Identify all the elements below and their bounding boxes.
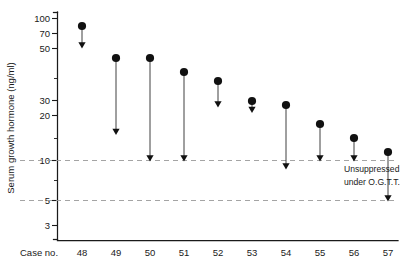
nadir-arrow-icon	[214, 101, 221, 107]
y-tick-labels: 100 70 50 30 20 10 5 3	[34, 13, 50, 231]
case-range-48	[78, 22, 86, 49]
basal-point-marker	[316, 120, 324, 128]
case-range-57	[384, 148, 392, 202]
case-range-54	[282, 101, 290, 170]
case-range-52	[214, 77, 222, 108]
y-tick-label-50: 50	[39, 43, 50, 54]
case-range-51	[180, 68, 188, 162]
y-axis-group	[54, 12, 58, 240]
x-tick-label-49: 49	[111, 247, 122, 258]
basal-point-marker	[282, 101, 290, 109]
nadir-arrow-icon	[112, 129, 119, 135]
annotation-line-2: under O.G.T.T.	[344, 177, 400, 187]
basal-point-marker	[146, 54, 154, 62]
x-tick-label-51: 51	[179, 247, 190, 258]
growth-hormone-chart: 100 70 50 30 20 10 5 3 Serum growth horm…	[0, 0, 411, 277]
nadir-arrow-icon	[282, 163, 289, 169]
x-tick-label-56: 56	[349, 247, 360, 258]
case-range-49	[112, 54, 120, 135]
x-tick-label-54: 54	[281, 247, 292, 258]
x-tick-labels: 48 49 50 51 52 53 54 55 56 57	[77, 247, 394, 258]
case-range-53	[248, 97, 256, 113]
x-tick-label-50: 50	[145, 247, 156, 258]
x-tick-label-48: 48	[77, 247, 88, 258]
y-tick-label-20: 20	[39, 110, 50, 121]
case-range-56	[350, 134, 358, 162]
annotation-line-1: Unsuppressed	[344, 164, 400, 174]
x-tick-label-52: 52	[213, 247, 224, 258]
basal-point-marker	[350, 134, 358, 142]
y-tick-label-3: 3	[45, 220, 50, 231]
basal-point-marker	[180, 68, 188, 76]
y-axis-title: Serum growth hormone (ng/ml)	[5, 62, 16, 193]
basal-point-marker	[112, 54, 120, 62]
data-series-group	[78, 22, 392, 202]
nadir-arrow-icon	[78, 42, 85, 48]
y-tick-label-70: 70	[39, 28, 50, 39]
y-tick-label-30: 30	[39, 95, 50, 106]
x-tick-label-53: 53	[247, 247, 258, 258]
basal-point-marker	[384, 148, 392, 156]
basal-point-marker	[248, 97, 256, 105]
nadir-arrow-icon	[248, 107, 255, 113]
x-tick-label-55: 55	[315, 247, 326, 258]
x-axis-title: Case no.	[20, 247, 58, 258]
reference-lines	[20, 161, 398, 201]
x-tick-label-57: 57	[383, 247, 394, 258]
case-range-55	[316, 120, 324, 162]
basal-point-marker	[78, 22, 86, 30]
chart-canvas: 100 70 50 30 20 10 5 3 Serum growth horm…	[0, 0, 411, 277]
y-tick-label-100: 100	[34, 13, 50, 24]
basal-point-marker	[214, 77, 222, 85]
annotation-unsuppressed: Unsuppressed under O.G.T.T.	[344, 164, 400, 187]
case-range-50	[146, 54, 154, 162]
